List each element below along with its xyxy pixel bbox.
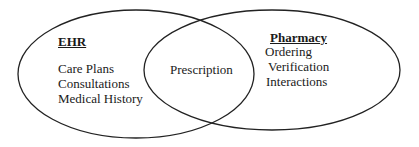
pharmacy-item-verification: Verification [268,59,329,74]
ehr-item-medical-history: Medical History [58,91,143,106]
ehr-item-care-plans: Care Plans [58,61,143,76]
pharmacy-items: Ordering Verification Interactions [265,44,329,89]
ehr-items: Care Plans Consultations Medical History [58,61,143,106]
intersection-label: Prescription [170,62,233,77]
ehr-title: EHR [58,34,86,49]
pharmacy-item-interactions: Interactions [266,74,329,89]
pharmacy-set: Pharmacy [270,30,327,45]
pharmacy-title: Pharmacy [270,30,327,45]
pharmacy-item-ordering: Ordering [265,44,329,59]
ehr-set: EHR [58,34,86,49]
ehr-item-consultations: Consultations [58,76,143,91]
